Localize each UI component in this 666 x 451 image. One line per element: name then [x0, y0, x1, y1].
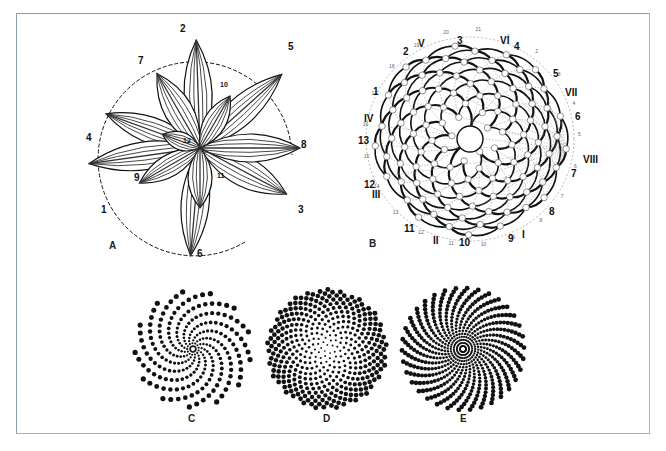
spiral-dot: [239, 367, 244, 372]
spiral-dot: [458, 375, 461, 378]
floret-dot: [354, 340, 357, 343]
spiral-dot: [465, 360, 467, 362]
spiral-dot: [435, 341, 438, 344]
spiral-dot: [423, 311, 427, 315]
spiral-dot: [169, 360, 172, 363]
floret-guide: [451, 161, 464, 183]
spiral-dot: [186, 310, 190, 314]
spiral-dot: [441, 325, 444, 328]
parastichy-number: 13: [358, 135, 370, 146]
floret-dot: [328, 302, 332, 306]
spiral-dot: [490, 307, 494, 311]
floret: [384, 153, 390, 159]
floret-dot: [359, 360, 363, 364]
outer-floret-number: 18: [389, 63, 395, 69]
leaf-number: 4: [86, 132, 92, 143]
spiral-dot: [220, 361, 224, 365]
spiral-dot: [433, 379, 437, 383]
floret-dot: [344, 353, 347, 356]
floret-dot: [298, 301, 303, 306]
floret-dot: [296, 392, 301, 397]
spiral-dot: [489, 328, 492, 331]
floret-dot: [343, 380, 347, 384]
spiral-dot: [498, 347, 502, 351]
spiral-dot: [463, 336, 465, 338]
floret: [397, 160, 403, 166]
floret-dot: [265, 340, 270, 345]
floret-dot: [318, 289, 323, 294]
floret-dot: [315, 365, 318, 368]
spiral-dot: [435, 326, 438, 329]
spiral-dot: [187, 345, 189, 347]
floret-dot: [310, 395, 314, 399]
spiral-dot: [506, 321, 510, 325]
spiral-dot: [455, 331, 458, 334]
floret-dot: [272, 332, 277, 337]
spiral-dot: [145, 351, 150, 356]
spiral-dot: [473, 352, 475, 354]
spiral-dot: [483, 346, 486, 349]
floret-dot: [276, 369, 281, 374]
spiral-dot: [452, 360, 454, 362]
floret: [423, 122, 429, 128]
spiral-dot: [455, 327, 458, 330]
spiral-dot: [480, 349, 483, 352]
spiral-dot: [177, 369, 180, 372]
spiral-dot: [486, 291, 491, 296]
spiral-dot: [172, 311, 176, 315]
floret-dot: [368, 316, 373, 321]
spiral-dot: [477, 348, 479, 350]
spiral-dot: [425, 318, 429, 322]
spiral-dot: [461, 333, 463, 335]
floret-dot: [332, 345, 334, 347]
floret-dot: [375, 363, 380, 368]
floret-dot: [326, 388, 330, 392]
floret-dot: [366, 350, 370, 354]
floret: [385, 92, 391, 98]
spiral-dot: [176, 397, 181, 402]
spiral-dot: [477, 351, 479, 353]
spiral-dot: [482, 354, 485, 357]
leaf-number: 6: [197, 248, 203, 259]
spiral-dot: [505, 379, 509, 383]
floret: [401, 79, 407, 85]
spiral-dot: [468, 371, 471, 374]
spiral-dot: [433, 320, 437, 324]
spiral-dot: [485, 334, 488, 337]
spiral-dot: [415, 311, 420, 316]
spiral-dot: [486, 365, 489, 368]
floret-dot: [294, 334, 297, 337]
spiral-dot: [209, 337, 212, 340]
floret-dot: [301, 347, 304, 350]
spiral-dot: [234, 348, 238, 352]
spiral-dot: [492, 333, 495, 336]
spiral-dot: [436, 356, 439, 359]
floret-dot: [356, 329, 360, 333]
floret-dot: [289, 389, 294, 394]
spiral-dot: [232, 305, 237, 310]
spiral-dot: [485, 343, 488, 346]
spiral-dot: [475, 323, 478, 326]
floret-dot: [313, 398, 318, 403]
spiral-dot: [460, 320, 463, 323]
spiral-dot: [472, 382, 476, 386]
floret-dot: [309, 315, 313, 319]
spiral-dot: [446, 374, 449, 377]
floret-dot: [298, 396, 303, 401]
spiral-dot: [197, 355, 199, 357]
leaf-number: 10: [220, 81, 228, 88]
spiral-dot: [210, 301, 215, 306]
floret: [389, 135, 395, 141]
spiral-dot: [467, 317, 470, 320]
spiral-dot: [488, 322, 492, 326]
floret: [503, 52, 509, 58]
spiral-dot: [431, 301, 435, 305]
spiral-dot: [187, 404, 192, 409]
parastichy-number: 7: [571, 168, 577, 179]
floret-dot: [314, 299, 318, 303]
spiral-dot: [450, 326, 453, 329]
spiral-dot: [499, 327, 503, 331]
spiral-dot: [427, 361, 431, 365]
spiral-dot: [424, 360, 428, 364]
spiral-dot: [489, 333, 492, 336]
